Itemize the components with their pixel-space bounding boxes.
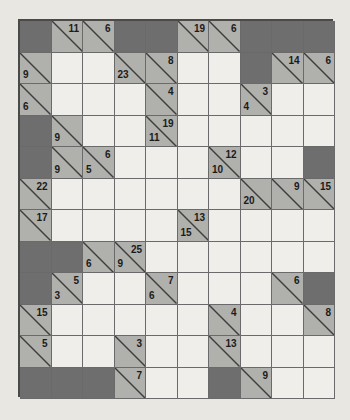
open-cell[interactable] [178,53,210,85]
open-cell[interactable] [115,273,147,305]
clue-down-number: 8 [325,308,331,318]
open-cell[interactable] [146,368,178,400]
open-cell[interactable] [83,305,115,337]
clue-cell: 11 [52,21,84,53]
clue-right-number: 9 [118,259,124,269]
open-cell[interactable] [115,116,147,148]
open-cell[interactable] [83,53,115,85]
open-cell[interactable] [272,84,304,116]
open-cell[interactable] [115,84,147,116]
open-cell[interactable] [209,116,241,148]
clue-right-number: 5 [86,165,92,175]
open-cell[interactable] [178,179,210,211]
clue-cell: 22 [20,179,52,211]
open-cell[interactable] [146,179,178,211]
open-cell[interactable] [178,273,210,305]
clue-cell: 19 [178,21,210,53]
open-cell[interactable] [304,336,336,368]
open-cell[interactable] [146,305,178,337]
open-cell[interactable] [115,179,147,211]
open-cell[interactable] [209,53,241,85]
open-cell[interactable] [83,179,115,211]
open-cell[interactable] [52,179,84,211]
clue-down-number: 7 [136,371,142,381]
open-cell[interactable] [83,336,115,368]
clue-right-number: 23 [118,70,129,80]
open-cell[interactable] [178,84,210,116]
kakuro-puzzle: 1161969238146643491911965121022209151713… [18,19,333,397]
open-cell[interactable] [272,116,304,148]
open-cell[interactable] [272,147,304,179]
clue-cell: 23 [115,53,147,85]
clue-cell: 4 [146,84,178,116]
open-cell[interactable] [209,84,241,116]
open-cell[interactable] [304,210,336,242]
open-cell[interactable] [52,84,84,116]
open-cell[interactable] [178,242,210,274]
clue-down-number: 3 [262,87,268,97]
open-cell[interactable] [304,242,336,274]
open-cell[interactable] [52,336,84,368]
clue-cell: 15 [20,305,52,337]
open-cell[interactable] [304,116,336,148]
open-cell[interactable] [115,210,147,242]
open-cell[interactable] [178,147,210,179]
open-cell[interactable] [146,242,178,274]
open-cell[interactable] [146,336,178,368]
clue-down-number: 7 [168,276,174,286]
open-cell[interactable] [304,84,336,116]
open-cell[interactable] [241,305,273,337]
open-cell[interactable] [209,179,241,211]
open-cell[interactable] [146,210,178,242]
open-cell[interactable] [241,336,273,368]
open-cell[interactable] [52,305,84,337]
clue-down-number: 22 [36,182,47,192]
clue-down-number: 25 [131,245,142,255]
open-cell[interactable] [83,84,115,116]
open-cell[interactable] [272,336,304,368]
clue-cell: 3 [115,336,147,368]
open-cell[interactable] [241,273,273,305]
clue-cell: 65 [83,147,115,179]
clue-down-number: 6 [294,276,300,286]
open-cell[interactable] [272,305,304,337]
kakuro-grid[interactable]: 1161969238146643491911965121022209151713… [20,21,331,395]
clue-cell: 34 [241,84,273,116]
open-cell[interactable] [52,53,84,85]
open-cell[interactable] [146,147,178,179]
clue-down-number: 15 [36,308,47,318]
open-cell[interactable] [241,210,273,242]
clue-cell: 9 [241,368,273,400]
block-cell [20,116,52,148]
clue-cell: 6 [83,242,115,274]
open-cell[interactable] [241,242,273,274]
open-cell[interactable] [83,273,115,305]
open-cell[interactable] [241,147,273,179]
clue-cell: 6 [209,21,241,53]
block-cell [304,273,336,305]
clue-right-number: 6 [86,259,92,269]
open-cell[interactable] [83,116,115,148]
open-cell[interactable] [272,368,304,400]
open-cell[interactable] [272,210,304,242]
open-cell[interactable] [52,210,84,242]
open-cell[interactable] [209,242,241,274]
clue-down-number: 3 [136,339,142,349]
block-cell [52,242,84,274]
open-cell[interactable] [83,210,115,242]
open-cell[interactable] [209,273,241,305]
open-cell[interactable] [115,147,147,179]
block-cell [20,242,52,274]
open-cell[interactable] [304,368,336,400]
open-cell[interactable] [272,242,304,274]
open-cell[interactable] [209,210,241,242]
clue-down-number: 6 [325,56,331,66]
block-cell [272,21,304,53]
open-cell[interactable] [115,305,147,337]
clue-down-number: 5 [73,276,79,286]
open-cell[interactable] [241,116,273,148]
open-cell[interactable] [178,305,210,337]
open-cell[interactable] [178,368,210,400]
open-cell[interactable] [178,116,210,148]
open-cell[interactable] [178,336,210,368]
